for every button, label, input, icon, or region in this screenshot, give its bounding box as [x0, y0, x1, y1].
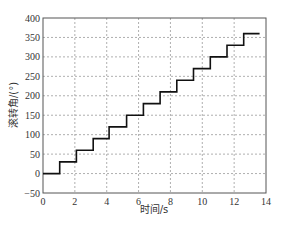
y-tick-label: −50: [24, 188, 40, 199]
x-tick-label: 14: [261, 196, 271, 207]
roll-angle-series: [43, 34, 260, 174]
y-tick-label: 50: [30, 149, 40, 160]
x-axis-label: 时间/s: [140, 203, 169, 215]
plot-frame: [43, 18, 266, 193]
x-tick-label: 12: [229, 196, 239, 207]
x-tick-label: 4: [104, 196, 109, 207]
y-axis-label: 滚转角/(°): [7, 82, 19, 128]
chart: −50050100150200250300350400 02468101214 …: [0, 0, 284, 228]
y-tick-label: 300: [25, 51, 40, 62]
y-axis-ticks: −50050100150200250300350400: [24, 13, 40, 199]
grid-lines: [43, 18, 266, 193]
y-tick-label: 200: [25, 90, 40, 101]
x-tick-label: 10: [197, 196, 207, 207]
x-tick-label: 2: [72, 196, 77, 207]
x-tick-label: 8: [168, 196, 173, 207]
x-tick-label: 0: [41, 196, 46, 207]
y-tick-label: 100: [25, 129, 40, 140]
y-tick-label: 250: [25, 71, 40, 82]
y-tick-label: 0: [35, 168, 40, 179]
y-tick-label: 150: [25, 110, 40, 121]
y-tick-label: 350: [25, 32, 40, 43]
y-tick-label: 400: [25, 13, 40, 24]
